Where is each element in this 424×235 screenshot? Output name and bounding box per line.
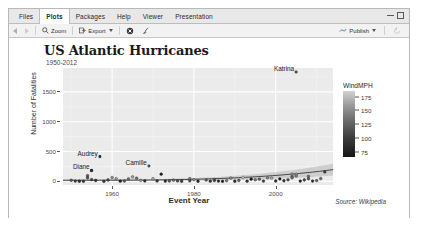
publish-button[interactable]: Publish: [335, 25, 380, 37]
rstudio-plots-pane: Files Plots Packages Help Viewer Present…: [8, 8, 410, 218]
maximize-icon[interactable]: [397, 12, 404, 19]
plot-graphics: [63, 68, 333, 185]
tab-viewer-label: Viewer: [143, 13, 163, 20]
refresh-icon: [393, 27, 401, 35]
legend-tick-mark: [355, 151, 359, 152]
export-icon: [79, 27, 86, 34]
tab-files-label: Files: [19, 13, 33, 20]
forward-arrow-icon: [25, 28, 29, 34]
y-tick-label: 1500: [42, 88, 56, 95]
back-arrow-icon: [13, 28, 17, 34]
tab-packages[interactable]: Packages: [70, 9, 111, 24]
clear-all-plots-button[interactable]: [138, 25, 154, 37]
toolbar-separator: [384, 26, 385, 35]
export-button[interactable]: Export: [75, 25, 116, 37]
y-tick-mark: [57, 151, 60, 152]
plots-toolbar: Zoom Export Publish: [9, 24, 409, 38]
tab-help[interactable]: Help: [111, 9, 137, 24]
legend-title: WindMPH: [343, 82, 399, 89]
legend-tick-labels: 17515012510075: [355, 91, 395, 157]
chart-title: US Atlantic Hurricanes: [44, 43, 209, 58]
point-annotation: Camille: [126, 159, 147, 166]
chevron-down-icon[interactable]: [109, 29, 113, 32]
legend-tick-mark: [355, 124, 359, 125]
tab-plots-label: Plots: [46, 13, 62, 20]
tab-viewer[interactable]: Viewer: [137, 9, 169, 24]
legend-body: 17515012510075: [343, 91, 399, 157]
window-controls: [387, 12, 404, 19]
tab-list: Files Plots Packages Help Viewer Present…: [13, 9, 219, 24]
toolbar-separator: [119, 26, 120, 35]
publish-label: Publish: [349, 28, 369, 34]
publish-icon: [339, 27, 347, 34]
x-tick-mark: [112, 186, 113, 189]
toolbar-separator: [72, 26, 73, 35]
tab-files[interactable]: Files: [13, 9, 39, 24]
legend-tick-mark: [355, 137, 359, 138]
pane-tab-bar: Files Plots Packages Help Viewer Present…: [9, 9, 409, 24]
magnifier-icon: [42, 27, 49, 34]
y-axis-ticks: 050010001500: [9, 68, 61, 185]
point-annotation: Diane: [73, 163, 90, 170]
legend-tick-label: 125: [361, 121, 371, 128]
refresh-button[interactable]: [389, 25, 405, 37]
legend-tick-mark: [355, 110, 359, 111]
remove-plot-button[interactable]: [122, 25, 138, 37]
chart-subtitle: 1950-2012: [46, 59, 77, 66]
chevron-down-icon[interactable]: [372, 29, 376, 32]
y-tick-label: 1000: [42, 118, 56, 125]
tab-presentation[interactable]: Presentation: [169, 9, 219, 24]
legend-colorbar: [343, 91, 355, 157]
x-tick-mark: [194, 186, 195, 189]
y-tick-mark: [57, 121, 60, 122]
annotated-data-point: [90, 169, 93, 172]
tab-plots[interactable]: Plots: [39, 9, 69, 25]
chart-caption: Source: Wikipedia: [335, 198, 386, 205]
toolbar-right-group: Publish: [335, 25, 405, 37]
legend-tick-label: 175: [361, 93, 371, 100]
point-annotation: Katrina: [274, 65, 294, 72]
plot-panel: [63, 68, 333, 185]
y-tick-label: 0: [53, 177, 56, 184]
export-label: Export: [88, 28, 105, 34]
y-tick-mark: [57, 91, 60, 92]
y-tick-mark: [57, 181, 60, 182]
legend-tick-mark: [355, 96, 359, 97]
zoom-label: Zoom: [51, 28, 66, 34]
clear-all-plots-icon: [142, 27, 150, 35]
legend: WindMPH 17515012510075: [343, 82, 399, 157]
x-tick-label: 1960: [105, 190, 119, 197]
y-tick-label: 500: [46, 148, 56, 155]
toolbar-separator: [35, 26, 36, 35]
plot-canvas: US Atlantic Hurricanes 1950-2012 Source:…: [9, 38, 409, 218]
x-tick-label: 2000: [269, 190, 283, 197]
x-tick-mark: [276, 186, 277, 189]
tab-help-label: Help: [117, 13, 131, 20]
annotated-data-point: [99, 155, 102, 158]
remove-plot-icon: [126, 27, 134, 35]
forward-button[interactable]: [21, 25, 33, 37]
tab-presentation-label: Presentation: [175, 13, 213, 20]
point-annotation: Audrey: [78, 150, 98, 157]
legend-tick-label: 100: [361, 134, 371, 141]
zoom-button[interactable]: Zoom: [38, 25, 70, 37]
x-tick-label: 1980: [187, 190, 201, 197]
tab-packages-label: Packages: [76, 13, 105, 20]
back-button[interactable]: [9, 25, 21, 37]
minimize-icon[interactable]: [387, 15, 394, 16]
x-axis-ticks: 196019802000: [63, 186, 333, 198]
legend-tick-label: 150: [361, 107, 371, 114]
legend-tick-label: 75: [361, 148, 368, 155]
